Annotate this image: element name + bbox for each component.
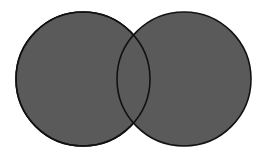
- venn-diagram: [0, 0, 264, 150]
- venn-circle-right: [117, 12, 251, 146]
- venn-svg: [0, 0, 264, 150]
